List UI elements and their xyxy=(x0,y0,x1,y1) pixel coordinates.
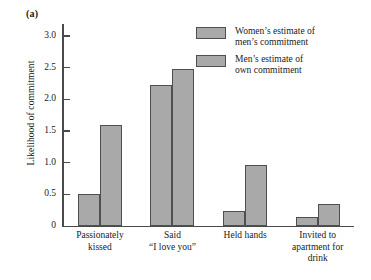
bar xyxy=(172,69,194,226)
bar xyxy=(296,217,318,227)
x-axis-category-label: Invited to apartment for drink xyxy=(281,230,354,265)
chart-legend: Women’s estimate of men’s commitmentMen’… xyxy=(196,26,315,82)
legend-item: Men’s estimate of own commitment xyxy=(196,54,315,76)
y-axis-tick-label: 1.0 xyxy=(22,158,56,168)
bar xyxy=(150,85,172,226)
y-axis-tick-label: 0 xyxy=(22,221,56,231)
y-axis-tick-label: 2.0 xyxy=(22,94,56,104)
legend-item: Women’s estimate of men’s commitment xyxy=(196,26,315,48)
y-axis-tick-label-text: 1.0 xyxy=(26,158,56,168)
y-axis-tick-label: 0.5 xyxy=(22,189,56,199)
x-axis-category-label: Said “I love you” xyxy=(136,230,209,253)
legend-label: Women’s estimate of men’s commitment xyxy=(235,26,315,48)
y-axis-tick-label: 3.0 xyxy=(22,31,56,41)
y-axis-tick-label-text: 2.5 xyxy=(26,63,56,73)
bar xyxy=(100,125,122,226)
figure-panel-a: (a) Likelihood of commitment 00.51.01.52… xyxy=(0,0,371,280)
y-axis-tick-label-text: 0.5 xyxy=(26,189,56,199)
legend-swatch xyxy=(196,55,226,67)
panel-label: (a) xyxy=(26,8,38,19)
bar xyxy=(245,165,267,226)
y-axis-tick-label-text: 0 xyxy=(26,221,56,231)
y-axis-tick-label: 1.5 xyxy=(22,126,56,136)
y-axis-tick-label-text: 3.0 xyxy=(26,31,56,41)
bar xyxy=(223,211,245,226)
y-axis-title: Likelihood of commitment xyxy=(26,33,36,193)
x-axis-category-label: Passionately kissed xyxy=(64,230,137,253)
legend-swatch xyxy=(196,27,226,39)
legend-label: Men’s estimate of own commitment xyxy=(235,54,303,76)
y-axis-tick-label: 2.5 xyxy=(22,63,56,73)
y-axis-tick-label-text: 1.5 xyxy=(26,126,56,136)
bar xyxy=(78,194,100,226)
x-axis-category-label: Held hands xyxy=(209,230,282,242)
bar xyxy=(318,204,340,226)
y-axis-tick-label-text: 2.0 xyxy=(26,94,56,104)
